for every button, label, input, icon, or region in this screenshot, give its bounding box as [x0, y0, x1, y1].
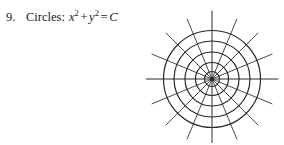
origin-dot	[210, 77, 214, 81]
radial-spoke	[166, 33, 212, 79]
worksheet-page: 9. Circles: x2+y2=C	[0, 0, 284, 145]
origin-marker-group	[210, 77, 214, 81]
problem-number: 9.	[6, 11, 26, 24]
equation-equals-sign: =	[99, 10, 109, 24]
radial-spoke	[166, 79, 212, 125]
problem-label: Circles:	[26, 11, 65, 24]
problem-equation: x2+y2=C	[69, 11, 118, 24]
equation-plus-sign: +	[79, 10, 89, 24]
radial-spoke	[212, 33, 258, 79]
equation-constant: C	[109, 10, 117, 24]
radial-spoke	[212, 79, 258, 125]
problem-statement: 9. Circles: x2+y2=C	[6, 11, 118, 24]
polar-grid-figure	[146, 3, 280, 143]
polar-grid-svg	[146, 3, 280, 143]
